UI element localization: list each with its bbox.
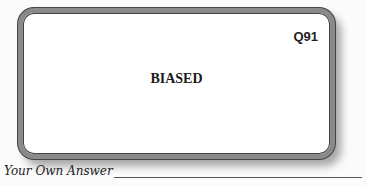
vocabulary-term: BIASED (23, 71, 330, 87)
answer-input-line[interactable] (114, 163, 362, 178)
answer-row: Your Own Answer (4, 163, 362, 178)
answer-label: Your Own Answer (4, 164, 113, 178)
question-number: Q91 (293, 29, 318, 44)
flashcard: Q91 BIASED (18, 8, 335, 159)
